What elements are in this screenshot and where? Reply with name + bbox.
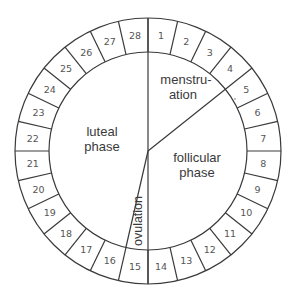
menstruation-label-2: ation bbox=[169, 87, 197, 102]
day-divider bbox=[170, 248, 178, 281]
day-divider bbox=[245, 121, 278, 129]
day-number: 3 bbox=[207, 47, 213, 58]
menstrual-cycle-diagram: 1234567891011121314151617181920212223242… bbox=[0, 0, 293, 299]
day-number: 8 bbox=[260, 158, 266, 169]
day-number: 19 bbox=[44, 207, 56, 218]
day-number: 21 bbox=[27, 158, 39, 169]
day-number: 18 bbox=[60, 228, 72, 239]
day-number: 11 bbox=[224, 228, 236, 239]
day-numbers: 1234567891011121314151617181920212223242… bbox=[27, 30, 267, 272]
ovulation-label: ovulation bbox=[131, 196, 145, 246]
menstruation-label: menstru- bbox=[160, 72, 211, 87]
day-number: 28 bbox=[129, 30, 141, 41]
day-divider bbox=[170, 21, 178, 54]
day-number: 17 bbox=[80, 244, 92, 255]
day-number: 24 bbox=[44, 84, 56, 95]
day-divider bbox=[245, 173, 278, 181]
day-divider bbox=[237, 93, 268, 108]
day-number: 4 bbox=[227, 63, 233, 74]
menstruation-line-dot bbox=[234, 98, 236, 100]
day-number: 12 bbox=[204, 244, 216, 255]
day-divider bbox=[191, 31, 206, 62]
day-divider bbox=[28, 93, 59, 108]
day-number: 9 bbox=[254, 184, 260, 195]
day-number: 16 bbox=[104, 255, 116, 266]
day-divider bbox=[118, 248, 126, 281]
luteal-label-2: phase bbox=[84, 139, 119, 154]
luteal-label: luteal bbox=[86, 124, 117, 139]
day-divider bbox=[118, 21, 126, 54]
day-number: 15 bbox=[129, 261, 141, 272]
day-number: 10 bbox=[240, 207, 252, 218]
day-number: 22 bbox=[27, 133, 39, 144]
follicular-label: follicular bbox=[173, 150, 221, 165]
follicular-label-2: phase bbox=[179, 165, 214, 180]
day-number: 26 bbox=[80, 47, 92, 58]
day-number: 6 bbox=[254, 107, 260, 118]
day-number: 23 bbox=[32, 107, 44, 118]
day-number: 20 bbox=[32, 184, 44, 195]
day-number: 1 bbox=[158, 30, 164, 41]
day-number: 7 bbox=[260, 133, 266, 144]
day-number: 27 bbox=[104, 36, 116, 47]
day-number: 25 bbox=[60, 63, 72, 74]
day-divider bbox=[18, 121, 51, 129]
day-number: 14 bbox=[155, 261, 167, 272]
day-number: 5 bbox=[243, 84, 249, 95]
day-number: 13 bbox=[180, 255, 192, 266]
day-number: 2 bbox=[183, 36, 189, 47]
day-divider bbox=[18, 173, 51, 181]
